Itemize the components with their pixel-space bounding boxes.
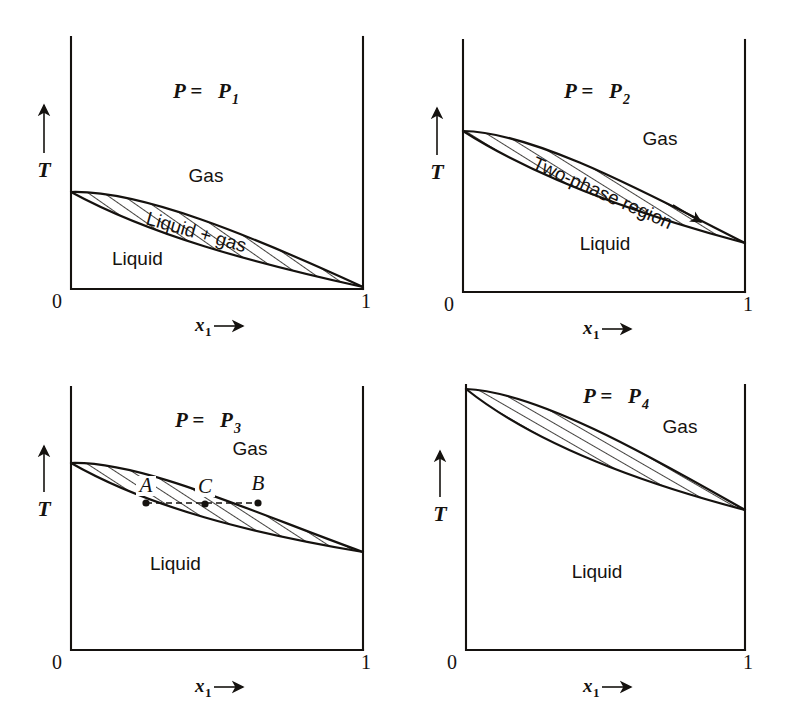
- panel-p1-liquid-label: Liquid: [112, 248, 163, 269]
- panel-p1-pressure-text: P =: [172, 79, 202, 103]
- panel-p2-liquid-label: Liquid: [580, 233, 631, 254]
- panel-p4-pressure-symbol: P: [627, 384, 641, 408]
- panel-p3-point-c-label: C: [198, 474, 213, 498]
- panel-p1-pressure-symbol: P: [217, 79, 231, 103]
- panel-p3-t-label: T: [37, 496, 52, 521]
- panel-p4-liquid-label: Liquid: [572, 561, 623, 582]
- panel-p4-tick-0: 0: [447, 651, 457, 673]
- panel-p4-pressure-text: P =: [582, 384, 612, 408]
- panel-p2-pressure-text: P =: [563, 79, 593, 103]
- panel-p3-pressure-symbol: P: [219, 408, 233, 432]
- panel-p1-tick-1: 1: [361, 290, 371, 312]
- panel-p2-t-label: T: [430, 159, 445, 184]
- panel-p3-point-a-dot: [142, 499, 149, 506]
- panel-p3-point-c-dot: [201, 500, 208, 507]
- panel-p4-tick-1: 1: [743, 651, 753, 673]
- panel-p2-pressure-subscript: 2: [622, 92, 630, 107]
- panel-p3-tick-1: 1: [361, 651, 371, 673]
- panel-p2-tick-1: 1: [743, 293, 753, 315]
- panel-p1-x-subscript: 1: [205, 324, 212, 339]
- figure-background: [0, 0, 806, 721]
- panel-p4-gas-label: Gas: [663, 416, 698, 437]
- panel-p2-x-label: x: [582, 317, 593, 338]
- panel-p3-x-label: x: [194, 675, 205, 696]
- phase-diagram-figure: P = P 1 Gas Liquid Liquid + gas T 0 1 x …: [0, 0, 806, 721]
- panel-p4-x-subscript: 1: [593, 685, 600, 700]
- panel-p1-gas-label: Gas: [189, 165, 224, 186]
- panel-p3-tick-0: 0: [52, 651, 62, 673]
- panel-p2-tick-0: 0: [444, 293, 454, 315]
- panel-p4-x-label: x: [582, 675, 593, 696]
- panel-p1-pressure-subscript: 1: [232, 92, 239, 107]
- panel-p2-pressure-symbol: P: [608, 79, 622, 103]
- panel-p1-tick-0: 0: [52, 290, 62, 312]
- panel-p1-x-label: x: [194, 314, 205, 335]
- panel-p3-pressure-text: P =: [174, 408, 204, 432]
- panel-p3-gas-label: Gas: [233, 438, 268, 459]
- panel-p3-point-b-label: B: [252, 471, 265, 495]
- panel-p2-x-subscript: 1: [593, 327, 600, 342]
- panel-p4-t-label: T: [433, 501, 448, 526]
- panel-p3-liquid-label: Liquid: [150, 553, 201, 574]
- panel-p3-point-a-label: A: [138, 473, 153, 497]
- panel-p4-pressure-subscript: 4: [641, 397, 649, 412]
- panel-p2-gas-label: Gas: [643, 128, 678, 149]
- panel-p3-pressure-subscript: 3: [233, 421, 241, 436]
- panel-p3-point-b-dot: [254, 499, 261, 506]
- panel-p1-t-label: T: [37, 157, 52, 182]
- panel-p3-x-subscript: 1: [205, 685, 212, 700]
